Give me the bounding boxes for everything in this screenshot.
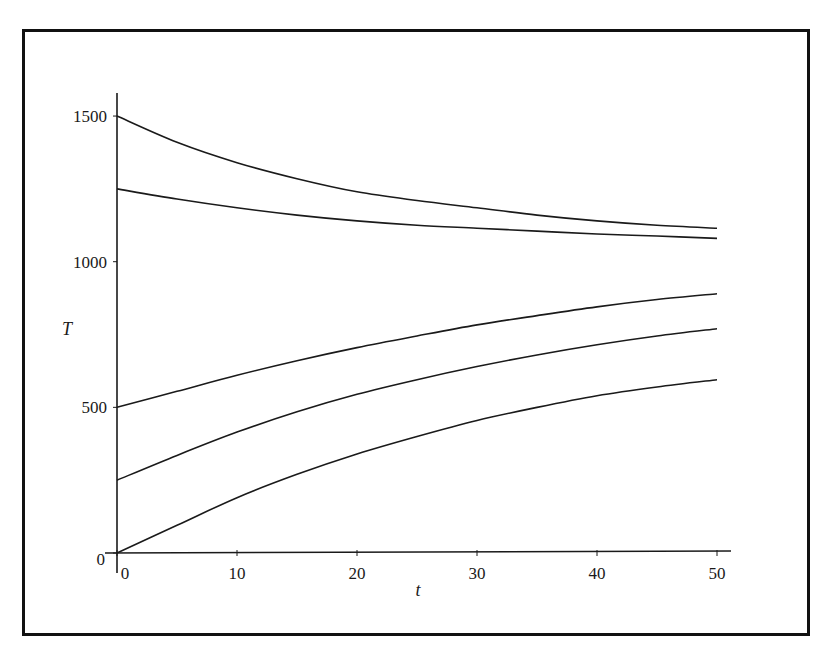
x-axis [105, 551, 731, 553]
axes [105, 93, 731, 573]
y-tick-label: 1000 [73, 253, 107, 272]
x-tick-label: 50 [709, 564, 726, 583]
y-tick-label: 0 [97, 550, 106, 569]
x-tick-label: 10 [229, 564, 246, 583]
tick-labels: 01020304050050010001500tT [62, 107, 726, 600]
curve-t0-1500 [117, 116, 717, 228]
line-chart: 01020304050050010001500tT [0, 0, 825, 649]
x-tick-label: 40 [589, 564, 606, 583]
y-tick-label: 500 [82, 398, 108, 417]
y-tick-label: 1500 [73, 107, 107, 126]
curve-t0-250 [117, 329, 717, 480]
x-axis-label: t [415, 580, 421, 600]
x-tick-label: 20 [349, 564, 366, 583]
curve-t0-0 [117, 380, 717, 553]
y-axis-label: T [62, 319, 74, 339]
x-tick-label: 0 [121, 564, 130, 583]
x-tick-label: 30 [469, 564, 486, 583]
curves [117, 116, 717, 553]
curve-t0-1250 [117, 189, 717, 239]
